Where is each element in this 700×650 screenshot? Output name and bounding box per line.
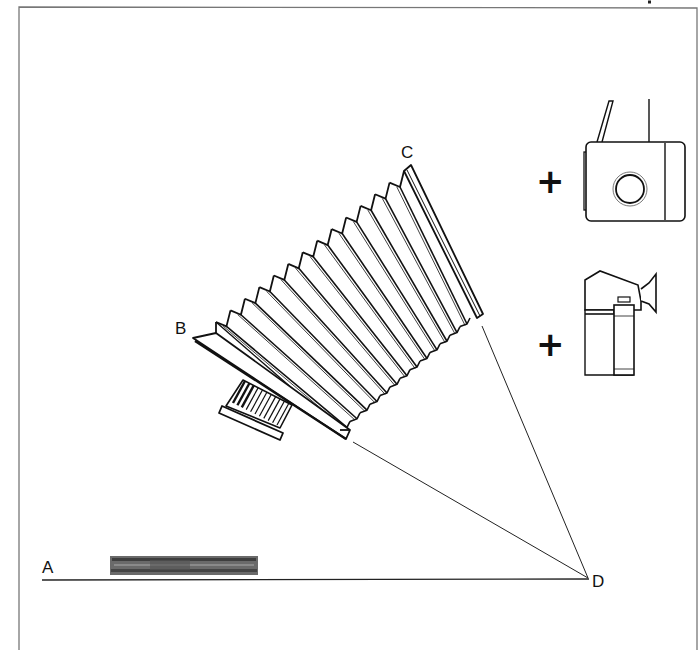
bellows-unit	[193, 165, 483, 440]
sight-line-lens-to-d	[353, 442, 588, 578]
label-d: D	[592, 572, 604, 591]
baseline-a-d	[42, 579, 589, 580]
plus-icon: +	[536, 161, 565, 201]
label-b: B	[175, 319, 186, 338]
redacted-text-block	[110, 556, 258, 575]
camera-body-waist-level-icon	[584, 99, 685, 221]
label-a: A	[42, 558, 54, 577]
bellows-diagram: A D B C + +	[0, 0, 700, 650]
label-c: C	[401, 143, 413, 162]
camera-body-prism-finder-icon	[585, 271, 656, 375]
sight-line-rear-to-d	[482, 326, 588, 578]
plus-icon: +	[536, 324, 565, 364]
